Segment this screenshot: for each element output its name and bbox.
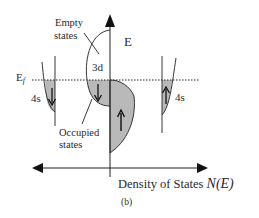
dos-axis-label: Density of States N(E) (118, 176, 234, 192)
fermi-level-label: Ef (16, 71, 27, 85)
dos-axis-right-arrowhead-icon (197, 163, 208, 173)
panel-label: (b) (121, 197, 132, 208)
band-4s-right-fill (162, 80, 172, 115)
energy-axis-label: E (124, 34, 132, 49)
band-3d-label: 3d (92, 61, 104, 73)
occupied-states-pointer (82, 99, 92, 124)
dos-axis-left-arrowhead-icon (32, 163, 43, 173)
dos-diagram: 4s 4s 3d Ef E D (0, 0, 259, 218)
band-4s-right-label: 4s (175, 91, 185, 103)
band-4s-right (162, 56, 176, 133)
energy-axis-arrowhead-icon (105, 14, 115, 27)
occupied-states-label: Occupied states (59, 127, 102, 150)
empty-states-label: Empty states (54, 17, 86, 41)
band-3d-spin-up-fill (110, 80, 134, 153)
band-4s-left-label: 4s (31, 92, 41, 104)
band-3d-spin-up (110, 80, 134, 153)
band-4s-left (42, 56, 56, 126)
band-3d-spin-down-fill (88, 80, 110, 106)
